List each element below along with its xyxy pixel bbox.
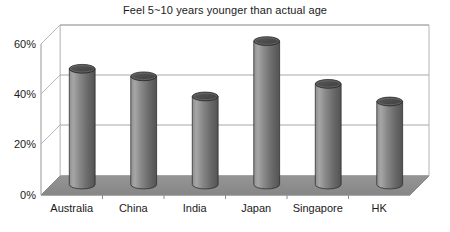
xtick-label-japan: Japan [241, 202, 271, 214]
ytick-label-20: 20% [14, 138, 36, 150]
xtick-label-hk: HK [372, 202, 388, 214]
xtick-label-singapore: Singapore [293, 202, 343, 214]
xtick-label-china: China [119, 202, 149, 214]
bar-singapore [315, 79, 341, 188]
bar-japan [254, 37, 280, 189]
country-axis [41, 195, 410, 199]
chart-container: Feel 5~10 years younger than actual age [0, 0, 450, 232]
category-labels: AustraliaChinaIndiaJapanSingaporeHK [50, 202, 387, 214]
xtick-label-india: India [183, 202, 208, 214]
chart-plot-area: 60% 40% 20% 0% AustraliaChinaIndiaJapanS… [0, 0, 450, 232]
ytick-label-40: 40% [14, 88, 36, 100]
bar-hk [377, 97, 403, 189]
bar-india [192, 92, 218, 189]
bar-australia [69, 64, 95, 189]
ytick-label-60: 60% [14, 38, 36, 50]
bar-china [131, 72, 157, 189]
chart-floor [41, 176, 429, 195]
chart-left-wall [41, 25, 60, 195]
xtick-label-australia: Australia [50, 202, 94, 214]
ytick-label-0: 0% [20, 189, 36, 201]
percentage-axis: 60% 40% 20% 0% [14, 38, 41, 201]
chart-back-wall [60, 25, 429, 176]
